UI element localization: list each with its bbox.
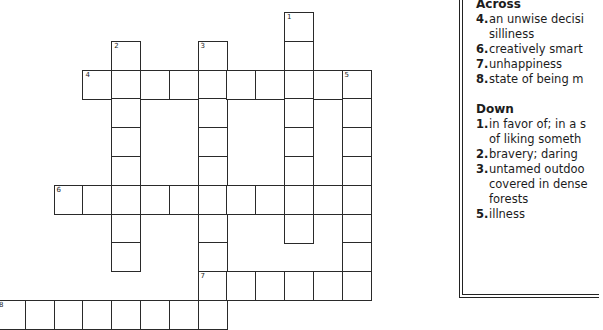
- grid-cell[interactable]: [342, 156, 372, 186]
- grid-cell[interactable]: [255, 70, 285, 100]
- grid-cell[interactable]: 7: [198, 271, 228, 301]
- grid-cell[interactable]: [198, 214, 228, 244]
- clue-text: in favor of; in a s: [489, 117, 603, 132]
- grid-cell[interactable]: [54, 300, 84, 330]
- grid-cell[interactable]: [284, 271, 314, 301]
- grid-cell[interactable]: [313, 185, 343, 215]
- across-clue-list: 4.an unwise decisisilliness6.creatively …: [476, 12, 603, 87]
- grid-cell[interactable]: [284, 185, 314, 215]
- grid-cell[interactable]: [198, 242, 228, 272]
- clue-text: covered in dense: [489, 177, 603, 192]
- clue-number: 4: [85, 72, 89, 79]
- clue-text: state of being m: [489, 72, 603, 87]
- grid-cell[interactable]: [342, 127, 372, 157]
- down-heading: Down: [476, 101, 603, 117]
- grid-cell[interactable]: [284, 98, 314, 128]
- clue-number: 3.: [476, 162, 488, 177]
- grid-cell[interactable]: [111, 98, 141, 128]
- grid-cell[interactable]: [198, 127, 228, 157]
- clue-text: unhappiness: [489, 57, 603, 72]
- grid-cell[interactable]: 6: [54, 185, 84, 215]
- clue-text: of liking someth: [489, 132, 603, 147]
- down-clue: 5.illness: [476, 207, 603, 222]
- grid-cell[interactable]: [198, 156, 228, 186]
- grid-cell[interactable]: [342, 271, 372, 301]
- clue-text: illness: [489, 207, 603, 222]
- grid-cell[interactable]: [140, 300, 170, 330]
- grid-cell[interactable]: [284, 70, 314, 100]
- grid-cell[interactable]: [255, 185, 285, 215]
- grid-cell[interactable]: [284, 156, 314, 186]
- clue-number: 1.: [476, 117, 488, 132]
- grid-cell[interactable]: [111, 214, 141, 244]
- across-heading: Across: [476, 0, 603, 12]
- clue-text: untamed outdoo: [489, 162, 603, 177]
- down-clue: 1.in favor of; in a sof liking someth: [476, 117, 603, 147]
- crossword-grid: 12374568: [0, 0, 420, 323]
- grid-cell[interactable]: [111, 127, 141, 157]
- clue-text: forests: [489, 192, 603, 207]
- grid-cell[interactable]: [111, 242, 141, 272]
- across-clue: 7.unhappiness: [476, 57, 603, 72]
- grid-cell[interactable]: [313, 271, 343, 301]
- clue-number: 7.: [476, 57, 488, 72]
- grid-cell[interactable]: [169, 185, 199, 215]
- grid-cell[interactable]: 4: [82, 70, 112, 100]
- across-clue: 4.an unwise decisisilliness: [476, 12, 603, 42]
- clue-text: silliness: [489, 27, 603, 42]
- grid-cell[interactable]: [342, 98, 372, 128]
- grid-cell[interactable]: 5: [342, 70, 372, 100]
- grid-cell[interactable]: [226, 185, 256, 215]
- clue-number: 8.: [476, 72, 488, 87]
- grid-cell[interactable]: [342, 242, 372, 272]
- across-clue: 6.creatively smart: [476, 42, 603, 57]
- down-clue: 2.bravery; daring: [476, 147, 603, 162]
- clue-text: bravery; daring: [489, 147, 603, 162]
- grid-cell[interactable]: [226, 271, 256, 301]
- grid-cell[interactable]: [140, 185, 170, 215]
- grid-cell[interactable]: 2: [111, 41, 141, 71]
- clue-number: 6.: [476, 42, 488, 57]
- grid-cell[interactable]: [140, 70, 170, 100]
- grid-cell[interactable]: [342, 214, 372, 244]
- across-clue: 8.state of being m: [476, 72, 603, 87]
- clue-number: 7: [201, 273, 205, 280]
- grid-cell[interactable]: [198, 98, 228, 128]
- grid-cell[interactable]: [111, 185, 141, 215]
- grid-cell[interactable]: [198, 70, 228, 100]
- grid-cell[interactable]: [255, 271, 285, 301]
- grid-cell[interactable]: [82, 300, 112, 330]
- grid-cell[interactable]: [284, 214, 314, 244]
- grid-cell[interactable]: [25, 300, 55, 330]
- grid-cell[interactable]: [111, 300, 141, 330]
- grid-cell[interactable]: 8: [0, 300, 26, 330]
- grid-cell[interactable]: [169, 70, 199, 100]
- clue-number: 8: [0, 302, 3, 309]
- clue-panel: Across 4.an unwise decisisilliness6.crea…: [459, 0, 599, 298]
- grid-cell[interactable]: [198, 300, 228, 330]
- grid-cell[interactable]: [342, 185, 372, 215]
- clue-text: an unwise decisi: [489, 12, 603, 27]
- clue-number: 4.: [476, 12, 488, 27]
- grid-cell[interactable]: 3: [198, 41, 228, 71]
- grid-cell[interactable]: [284, 41, 314, 71]
- clue-number: 5.: [476, 207, 488, 222]
- clue-text: creatively smart: [489, 42, 603, 57]
- grid-cell[interactable]: [284, 127, 314, 157]
- grid-cell[interactable]: [226, 70, 256, 100]
- grid-cell[interactable]: [313, 70, 343, 100]
- down-clue-list: 1.in favor of; in a sof liking someth2.b…: [476, 117, 603, 222]
- grid-cell[interactable]: [198, 185, 228, 215]
- clue-number: 3: [201, 43, 205, 50]
- clue-number: 2: [114, 43, 118, 50]
- grid-cell[interactable]: [111, 70, 141, 100]
- grid-cell[interactable]: [111, 156, 141, 186]
- clue-number: 6: [57, 187, 61, 194]
- grid-cell[interactable]: 1: [284, 12, 314, 42]
- clue-number: 5: [345, 72, 349, 79]
- clue-number: 1: [287, 14, 291, 21]
- grid-cell[interactable]: [169, 300, 199, 330]
- clue-number: 2.: [476, 147, 488, 162]
- down-clue: 3.untamed outdoocovered in denseforests: [476, 162, 603, 207]
- grid-cell[interactable]: [82, 185, 112, 215]
